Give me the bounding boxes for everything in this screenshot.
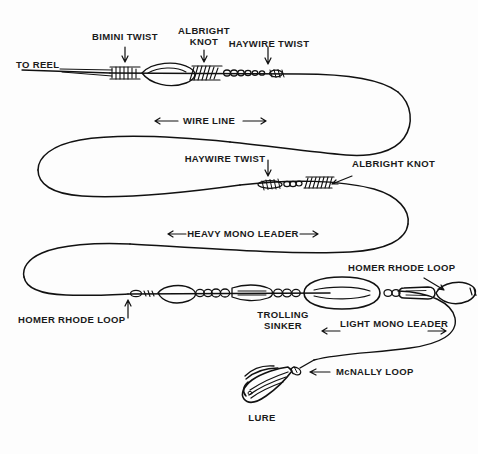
rig-illustration [0,0,478,454]
label-haywire-twist-mid: HAYWIRE TWIST [180,153,270,164]
label-homer-rhode-loop-right: HOMER RHODE LOOP [348,262,460,273]
bimini-loop-inner [148,68,186,73]
wire-line-twists-top [224,70,265,76]
callout-arrow-albright-top [201,50,207,62]
label-haywire-twist-top: HAYWIRE TWIST [219,38,319,49]
line-segment-fourth-run [24,243,130,277]
label-to-reel: TO REEL [16,59,59,70]
callout-arrow-homer-right [424,278,444,290]
line-segment-to-lure [300,360,314,368]
label-trolling-sinker: TROLLING SINKER [246,310,320,331]
label-albright-knot-mid: ALBRIGHT KNOT [352,158,462,169]
callout-arrow-mcnally [310,369,330,375]
label-heavy-mono-leader: HEAVY MONO LEADER [186,228,300,239]
label-homer-rhode-loop-left: HOMER RHODE LOOP [18,314,130,325]
turnaround-left-upper [38,170,240,197]
callout-arrow-bimini [122,47,128,62]
fishing-rig-diagram: TO REEL BIMINI TWIST ALBRIGHT KNOT HAYWI… [0,0,478,454]
label-bimini-twist: BIMINI TWIST [70,31,180,42]
label-light-mono-leader: LIGHT MONO LEADER [340,318,448,329]
bimini-loop-eye [142,63,195,85]
turnaround-left-lower [24,277,128,295]
label-mcnally-loop: McNALLY LOOP [336,366,430,377]
label-wire-line: WIRE LINE [176,115,242,126]
lure-skirt-strands [245,366,288,398]
label-lure: LURE [242,412,282,423]
haywire-twist-mid-knot [258,179,282,190]
turnaround-right-top [230,92,410,155]
callout-arrow-haywire-top [265,47,271,64]
